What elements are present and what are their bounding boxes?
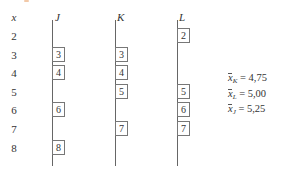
- row-label: 5: [8, 86, 20, 98]
- value-box: 6: [177, 102, 190, 117]
- mean-subscript: K: [233, 77, 238, 85]
- value-box: 6: [52, 102, 65, 117]
- value-box: 3: [115, 47, 128, 62]
- row-label: 4: [8, 67, 20, 79]
- mean-l: xL = 5,00: [228, 88, 267, 104]
- row-label: 8: [8, 142, 20, 154]
- mean-value: = 5,00: [239, 88, 266, 99]
- column-header-k: K: [117, 11, 124, 23]
- means-summary: xK = 4,75 xL = 5,00 xJ = 5,25: [228, 72, 267, 119]
- mean-j: xJ = 5,25: [228, 103, 267, 119]
- mean-symbol: x: [228, 72, 233, 83]
- mean-subscript: J: [233, 108, 236, 116]
- value-box: 7: [177, 121, 190, 136]
- row-label: 2: [8, 30, 20, 42]
- value-box: 7: [115, 121, 128, 136]
- mean-symbol: x: [228, 103, 233, 114]
- row-label: 6: [8, 104, 20, 116]
- value-box: 2: [177, 28, 190, 43]
- value-box: 4: [52, 65, 65, 80]
- row-label: 7: [8, 123, 20, 135]
- mean-symbol: x: [228, 88, 233, 99]
- mean-subscript: L: [233, 93, 237, 101]
- column-header-l: L: [179, 11, 185, 23]
- decorative-mark: [24, 0, 29, 2]
- row-label: 3: [8, 49, 20, 61]
- mean-value: = 5,25: [238, 103, 265, 114]
- mean-value: = 4,75: [240, 72, 267, 83]
- value-box: 8: [52, 140, 65, 155]
- axis-label: x: [8, 11, 20, 23]
- value-box: 3: [52, 47, 65, 62]
- value-box: 5: [115, 84, 128, 99]
- mean-k: xK = 4,75: [228, 72, 267, 88]
- value-box: 5: [177, 84, 190, 99]
- value-box: 4: [115, 65, 128, 80]
- column-header-j: J: [55, 11, 60, 23]
